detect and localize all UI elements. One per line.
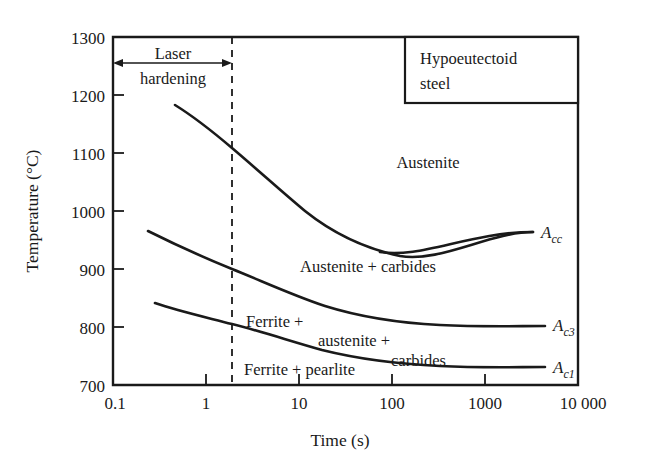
svg-text:Ac3: Ac3 — [552, 316, 575, 339]
ac1-label-sub: c1 — [563, 367, 574, 381]
x-tick-label-100: 100 — [379, 394, 405, 413]
curve-label-ac1: Ac1 — [552, 358, 575, 381]
region-label-ferrite-plus: Ferrite + — [246, 312, 303, 331]
y-axis-title: Temperature (°C) — [22, 149, 42, 272]
region-label-carbides: carbides — [391, 351, 446, 370]
region-label-austenite: Austenite — [396, 153, 459, 172]
y-tick-label-1300: 1300 — [71, 29, 105, 48]
y-tick-label-1100: 1100 — [72, 145, 105, 164]
svg-text:Ac1: Ac1 — [552, 358, 575, 381]
x-tick-label-10000: 10 000 — [560, 394, 607, 413]
y-axis-ticks — [113, 37, 124, 385]
curve-acc — [175, 105, 533, 257]
y-tick-label-1000: 1000 — [71, 203, 105, 222]
y-tick-label-700: 700 — [80, 377, 106, 396]
curve-label-ac3: Ac3 — [552, 316, 575, 339]
region-label-austenite-plus: austenite + — [318, 331, 390, 350]
y-tick-label-800: 800 — [80, 319, 106, 338]
x-tick-label-10: 10 — [291, 394, 308, 413]
legend-box — [405, 37, 578, 103]
laser-hardening-label-line2: hardening — [140, 69, 206, 88]
x-axis-title: Time (s) — [310, 430, 369, 450]
y-tick-label-1200: 1200 — [71, 87, 105, 106]
region-label-austenite-carbides: Austenite + carbides — [300, 257, 436, 276]
x-tick-label-1: 1 — [202, 394, 211, 413]
legend-text-line1: Hypoeutectoid — [420, 49, 518, 68]
region-label-ferrite-pearlite: Ferrite + pearlite — [244, 360, 355, 379]
legend-text-line2: steel — [420, 74, 451, 93]
phase-diagram-chart: 1300 1200 1100 1000 900 800 700 0.1 1 10… — [0, 0, 650, 466]
figure-container: 1300 1200 1100 1000 900 800 700 0.1 1 10… — [0, 0, 650, 466]
svg-text:Acc: Acc — [540, 223, 563, 246]
ac1-label-main: A — [552, 358, 564, 377]
acc-label-sub: cc — [551, 232, 562, 246]
ac3-label-main: A — [552, 316, 564, 335]
ac3-label-sub: c3 — [563, 325, 574, 339]
x-tick-label-0-1: 0.1 — [104, 394, 125, 413]
acc-label-main: A — [540, 223, 552, 242]
x-tick-label-1000: 1000 — [468, 394, 502, 413]
curve-ac3 — [148, 231, 545, 326]
laser-hardening-label-line1: Laser — [155, 44, 192, 63]
curve-label-acc: Acc — [540, 223, 563, 246]
y-tick-label-900: 900 — [80, 261, 106, 280]
